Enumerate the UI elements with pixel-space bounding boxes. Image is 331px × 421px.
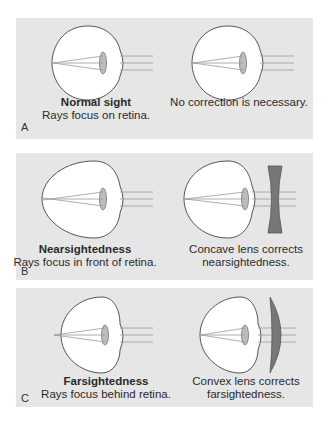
normal-correction-text: No correction is necessary.: [170, 96, 308, 108]
concave-lens-icon: [268, 166, 282, 233]
concave-correction-caption: Concave lens corrects nearsightedness.: [176, 243, 316, 269]
convex-lens-icon: [270, 297, 281, 373]
farsightedness-title: Farsightedness: [36, 375, 176, 388]
eye-icon: [52, 26, 153, 100]
farsightedness-caption: Farsightedness Rays focus behind retina.: [36, 375, 176, 401]
panel-nearsightedness: Nearsightedness Rays focus in front of r…: [16, 153, 313, 280]
normal-sight-desc: Rays focus on retina.: [42, 109, 150, 121]
eye-icon: [42, 161, 153, 238]
nearsightedness-caption: Nearsightedness Rays focus in front of r…: [10, 243, 160, 269]
nearsightedness-title: Nearsightedness: [10, 243, 160, 256]
panel-label-b: B: [21, 265, 28, 277]
panel-farsightedness: Farsightedness Rays focus behind retina.…: [16, 288, 313, 407]
convex-correction-line2: farsightedness.: [181, 388, 311, 401]
convex-correction-line1: Convex lens corrects: [181, 375, 311, 388]
nearsightedness-desc: Rays focus in front of retina.: [13, 256, 156, 268]
normal-sight-caption: Normal sight Rays focus on retina.: [36, 96, 156, 122]
eye-icon: [200, 297, 296, 373]
eye-icon: [192, 26, 294, 100]
normal-sight-title: Normal sight: [36, 96, 156, 109]
normal-correction-caption: No correction is necessary.: [164, 96, 314, 109]
convex-correction-caption: Convex lens corrects farsightedness.: [181, 375, 311, 401]
concave-correction-line1: Concave lens corrects: [176, 243, 316, 256]
panel-normal-sight: Normal sight Rays focus on retina. No co…: [16, 18, 313, 139]
farsightedness-desc: Rays focus behind retina.: [41, 388, 171, 400]
panel-label-a: A: [21, 121, 28, 133]
panel-label-c: C: [21, 392, 29, 404]
concave-correction-line2: nearsightedness.: [176, 256, 316, 269]
eye-icon: [54, 297, 153, 373]
